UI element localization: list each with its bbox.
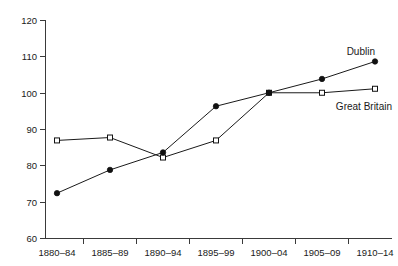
y-tick-label-60: 60 xyxy=(26,233,37,244)
series-line-dublin xyxy=(57,61,375,193)
series-markers-dublin xyxy=(54,59,377,196)
y-tick-label-70: 70 xyxy=(26,197,37,208)
x-tick-label-1895-99: 1895–99 xyxy=(198,247,235,258)
x-tick-label-1900-04: 1900–04 xyxy=(251,247,288,258)
y-axis-tick-labels: 120 110 100 90 80 70 60 xyxy=(21,15,37,244)
y-tick-label-90: 90 xyxy=(26,124,37,135)
series-markers-great-britain xyxy=(55,86,378,160)
data-point-dublin-1890–94 xyxy=(160,150,165,155)
y-tick-label-110: 110 xyxy=(22,51,37,62)
data-point-great-britain-1895–99 xyxy=(214,138,219,143)
data-point-dublin-1905–09 xyxy=(319,76,324,81)
y-axis-ticks xyxy=(40,21,46,239)
x-tick-label-1880-84: 1880–84 xyxy=(39,247,76,258)
series-line-great-britain xyxy=(57,89,375,158)
y-tick-label-80: 80 xyxy=(26,160,37,171)
series-annotation-great-britain: Great Britain xyxy=(336,101,392,112)
chart-canvas: 120 110 100 90 80 70 60 1880–84 1885–89 … xyxy=(0,0,398,266)
data-point-dublin-1910–14 xyxy=(372,59,377,64)
data-point-great-britain-1910–14 xyxy=(373,86,378,91)
data-point-dublin-1880–84 xyxy=(54,190,59,195)
data-point-great-britain-1905–09 xyxy=(320,90,325,95)
y-tick-label-120: 120 xyxy=(21,15,37,26)
data-point-great-britain-1885–89 xyxy=(108,135,113,140)
x-axis-tick-labels: 1880–84 1885–89 1890–94 1895–99 1900–04 … xyxy=(39,247,394,258)
x-axis-ticks xyxy=(84,239,349,245)
data-point-dublin-1895–99 xyxy=(213,104,218,109)
series-annotation-dublin: Dublin xyxy=(347,46,375,57)
data-point-great-britain-1890–94 xyxy=(161,155,166,160)
x-tick-label-1885-89: 1885–89 xyxy=(92,247,129,258)
x-tick-label-1905-09: 1905–09 xyxy=(304,247,341,258)
x-tick-label-1910-14: 1910–14 xyxy=(357,247,394,258)
data-point-dublin-1885–89 xyxy=(107,167,112,172)
y-tick-label-100: 100 xyxy=(21,88,37,99)
data-point-great-britain-1880–84 xyxy=(55,138,60,143)
x-tick-label-1890-94: 1890–94 xyxy=(145,247,182,258)
line-chart: 120 110 100 90 80 70 60 1880–84 1885–89 … xyxy=(0,0,398,266)
data-point-dublin-1900–04 xyxy=(266,90,271,95)
